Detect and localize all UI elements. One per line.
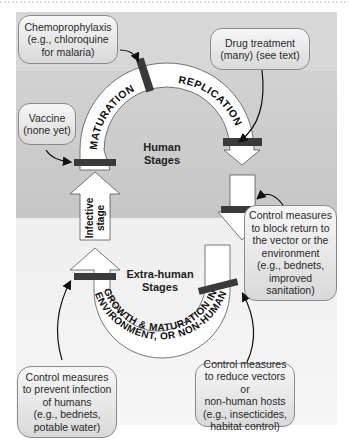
exit-box [230, 175, 255, 207]
vaccine-block-bar [74, 159, 116, 166]
block-return-text: Control measures to block return to the … [249, 209, 332, 297]
prevent-infection-callout: Control measures to prevent infection of… [17, 366, 117, 438]
reduce-vectors-text: Control measures to reduce vectors or no… [199, 358, 291, 433]
infective-stage-label-wrap: Infective stage [80, 196, 110, 240]
chemoprophylaxis-text: Chemoprophylaxis (e.g., chloroquine for … [25, 21, 112, 59]
drug-treatment-text: Drug treatment (many) (see text) [220, 37, 299, 62]
vaccine-text: Vaccine (none yet) [23, 112, 70, 137]
infective-stage-label: Infective stage [84, 198, 106, 239]
drug-treatment-callout: Drug treatment (many) (see text) [210, 28, 310, 70]
prevent-infection-block-bar [74, 273, 116, 280]
chemoprophylaxis-callout: Chemoprophylaxis (e.g., chloroquine for … [18, 15, 118, 64]
human-stages-label: Human Stages [137, 141, 187, 167]
block-return-callout: Control measures to block return to the … [244, 205, 337, 301]
prevent-infection-text: Control measures to prevent infection of… [23, 371, 112, 434]
extra-human-stages-label: Extra-human Stages [120, 268, 200, 294]
reduce-vectors-callout: Control measures to reduce vectors or no… [195, 363, 295, 427]
vaccine-callout: Vaccine (none yet) [18, 103, 76, 145]
